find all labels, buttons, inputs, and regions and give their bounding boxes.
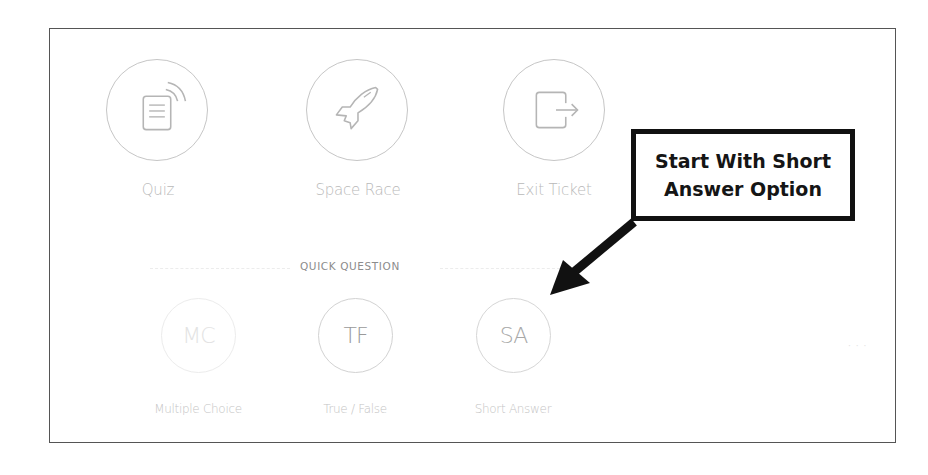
annotation-callout: Start With Short Answer Option	[631, 129, 855, 221]
multiple-choice-button[interactable]: MC	[161, 298, 236, 373]
faint-ellipsis: · · ·	[848, 341, 867, 351]
short-answer-label: Short Answer	[433, 402, 593, 416]
quiz-button[interactable]	[106, 59, 208, 161]
multiple-choice-label: Multiple Choice	[118, 402, 278, 416]
exit-ticket-label: Exit Ticket	[474, 181, 634, 199]
short-answer-button[interactable]: SA	[476, 298, 551, 373]
true-false-button[interactable]: TF	[318, 298, 393, 373]
true-false-abbr: TF	[343, 323, 367, 348]
multiple-choice-abbr: MC	[182, 323, 214, 348]
short-answer-abbr: SA	[500, 323, 527, 348]
exit-ticket-button[interactable]	[503, 59, 605, 161]
exit-door-arrow-icon	[504, 60, 604, 160]
annotation-line-1: Start With Short	[655, 147, 831, 175]
quiz-document-signal-icon	[107, 60, 207, 160]
divider-right	[440, 268, 560, 269]
quick-question-header: QUICK QUESTION	[0, 260, 928, 276]
space-race-button[interactable]	[306, 59, 408, 161]
space-race-label: Space Race	[278, 181, 438, 199]
annotation-line-2: Answer Option	[664, 175, 822, 203]
screenshot-stage: Quiz Space Race Exit Ticket QUICK QUESTI…	[0, 0, 928, 475]
quick-question-title: QUICK QUESTION	[300, 260, 400, 272]
divider-left	[150, 268, 290, 269]
rocket-icon	[307, 60, 407, 160]
true-false-label: True / False	[275, 402, 435, 416]
quiz-label: Quiz	[78, 181, 238, 199]
